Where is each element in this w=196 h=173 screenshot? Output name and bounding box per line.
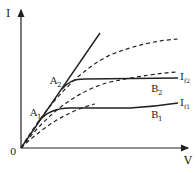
svg-text:2: 2 (158, 89, 162, 97)
y-axis-label: I (6, 7, 10, 20)
svg-text:2: 2 (57, 81, 61, 89)
curve-label-If2: I f2 (180, 71, 190, 84)
linear-line (21, 33, 100, 148)
solid-curve-If2 (62, 78, 178, 89)
origin-label: 0 (10, 146, 16, 157)
curve-label-If1: I f1 (180, 97, 190, 110)
svg-text:1: 1 (37, 113, 41, 121)
point-A1-label: A 1 (29, 107, 41, 121)
svg-text:1: 1 (158, 115, 162, 123)
iv-characteristic-diagram: I V 0 A 1 A 2 B 2 B 1 I f2 I f1 (0, 0, 196, 173)
point-B1-label: B 1 (151, 109, 162, 123)
svg-text:f1: f1 (184, 103, 190, 110)
point-A2-label: A 2 (49, 75, 61, 89)
svg-text:f2: f2 (184, 77, 190, 84)
point-B2-label: B 2 (151, 83, 162, 97)
x-axis-label: V (183, 154, 193, 167)
